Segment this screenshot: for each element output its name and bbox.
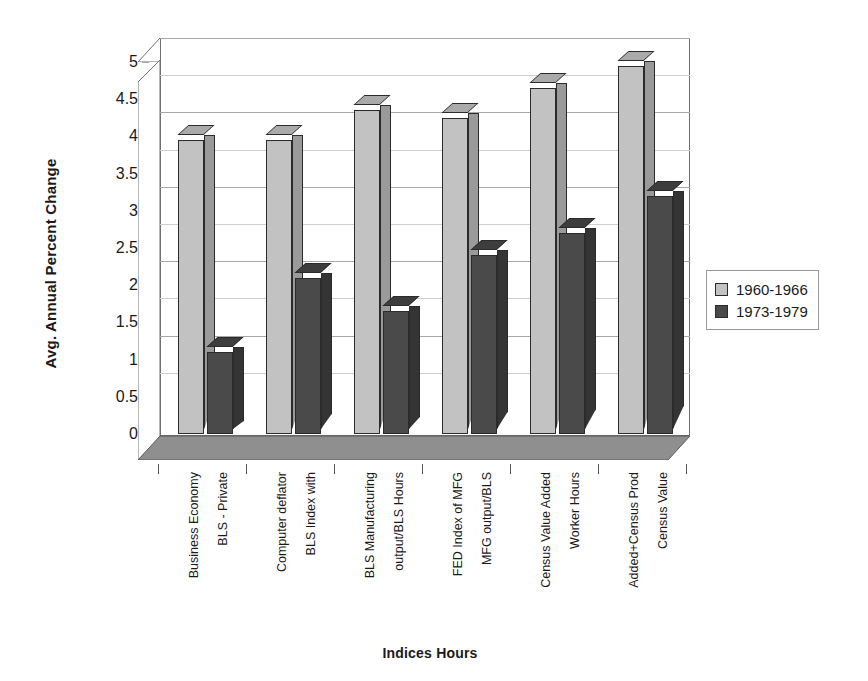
x-axis-category-label: Census Value bbox=[657, 472, 670, 549]
bar-front-face bbox=[354, 110, 380, 434]
x-axis-category-labels: Business EconomyBLS - PrivateComputer de… bbox=[138, 464, 698, 639]
bar-top-face bbox=[265, 125, 302, 135]
bar[interactable] bbox=[471, 255, 497, 434]
x-axis-tick-mark bbox=[158, 464, 159, 474]
bar-front-face bbox=[207, 352, 233, 434]
legend-swatch-icon bbox=[715, 283, 728, 296]
bar-top-face bbox=[441, 103, 478, 113]
bar[interactable] bbox=[207, 352, 233, 434]
x-axis-tick-mark bbox=[334, 464, 335, 474]
x-axis-category-label: BLS Manufacturing bbox=[364, 472, 377, 578]
legend-item[interactable]: 1960-1966 bbox=[715, 278, 808, 300]
x-axis-category-label: FED Index of MFG bbox=[452, 472, 465, 576]
bar-front-face bbox=[266, 140, 292, 434]
bar-front-face bbox=[530, 88, 556, 434]
bar-series-layer bbox=[138, 38, 690, 460]
x-axis-category-label: MFG output/BLS bbox=[481, 472, 494, 565]
x-axis-tick-mark bbox=[510, 464, 511, 474]
legend-item-label: 1973-1979 bbox=[736, 303, 808, 320]
x-axis-category-label: Computer deflator bbox=[276, 472, 289, 572]
legend-item-label: 1960-1966 bbox=[736, 281, 808, 298]
bar-side-face bbox=[585, 228, 596, 429]
y-axis-tick-label: 4.5 bbox=[116, 91, 138, 107]
chart-legend: 1960-1966 1973-1979 bbox=[706, 270, 819, 330]
bar[interactable] bbox=[383, 311, 409, 434]
x-axis-tick-mark bbox=[686, 464, 687, 474]
bar-front-face bbox=[618, 66, 644, 434]
bar[interactable] bbox=[295, 278, 321, 434]
bar[interactable] bbox=[178, 140, 204, 434]
bar-front-face bbox=[471, 255, 497, 434]
bar-front-face bbox=[383, 311, 409, 434]
bar-top-face bbox=[353, 95, 390, 105]
x-axis-category-label: Worker Hours bbox=[569, 472, 582, 549]
y-axis-tick-label: 2 bbox=[129, 277, 138, 293]
bar-front-face bbox=[559, 233, 585, 434]
bar-front-face bbox=[295, 278, 321, 434]
bar[interactable] bbox=[530, 88, 556, 434]
x-axis-category-label: output/BLS Hours bbox=[393, 472, 406, 571]
bar[interactable] bbox=[647, 196, 673, 434]
bar-front-face bbox=[647, 196, 673, 434]
y-axis-tick-label: 0 bbox=[129, 426, 138, 442]
x-axis-category-label: Added+Census Prod bbox=[628, 472, 641, 588]
x-axis-category-label: BLS - Private bbox=[217, 472, 230, 546]
y-axis-tick-label: 4 bbox=[129, 128, 138, 144]
bar-top-face bbox=[617, 51, 654, 61]
y-axis-tick-label: 0.5 bbox=[116, 389, 138, 405]
x-axis-tick-mark bbox=[422, 464, 423, 474]
bar-top-face bbox=[177, 125, 214, 135]
bar-side-face bbox=[409, 306, 420, 429]
bar[interactable] bbox=[442, 118, 468, 434]
bar-top-face bbox=[529, 73, 566, 83]
y-axis-tick-label: 1.5 bbox=[116, 314, 138, 330]
bar-front-face bbox=[178, 140, 204, 434]
bar-front-face bbox=[442, 118, 468, 434]
plot-area bbox=[138, 38, 690, 458]
bar[interactable] bbox=[266, 140, 292, 434]
x-axis-category-label: BLS Index with bbox=[305, 472, 318, 555]
y-axis-tick-label: 1 bbox=[129, 352, 138, 368]
y-axis-tick-label: 3 bbox=[129, 203, 138, 219]
x-axis-tick-mark bbox=[246, 464, 247, 474]
x-axis-tick-mark bbox=[598, 464, 599, 474]
bar-side-face bbox=[233, 347, 244, 429]
bar-side-face bbox=[321, 273, 332, 429]
x-axis-title: Indices Hours bbox=[150, 645, 710, 661]
y-axis-tick-labels: 00.511.522.533.544.55 bbox=[92, 38, 138, 458]
legend-swatch-icon bbox=[715, 305, 728, 318]
bar[interactable] bbox=[618, 66, 644, 434]
x-axis-category-label: Census Value Added bbox=[540, 472, 553, 588]
bar-side-face bbox=[673, 191, 684, 429]
x-axis-category-label: Business Economy bbox=[188, 472, 201, 578]
bar-chart: Avg. Annual Percent Change 00.511.522.53… bbox=[0, 0, 868, 681]
y-axis-title: Avg. Annual Percent Change bbox=[42, 104, 59, 424]
legend-item[interactable]: 1973-1979 bbox=[715, 300, 808, 322]
y-axis-tick-label: 2.5 bbox=[116, 240, 138, 256]
y-axis-tick-label: 3.5 bbox=[116, 166, 138, 182]
bar[interactable] bbox=[559, 233, 585, 434]
bar[interactable] bbox=[354, 110, 380, 434]
y-axis-tick-label: 5 bbox=[129, 54, 138, 70]
bar-side-face bbox=[497, 250, 508, 429]
